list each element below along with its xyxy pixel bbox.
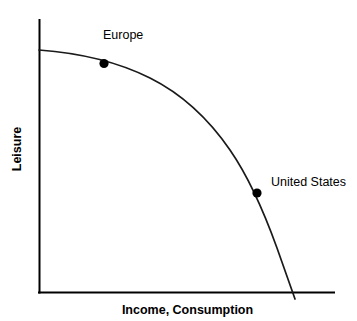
frontier-curve bbox=[39, 50, 295, 299]
data-point-united-states[interactable] bbox=[252, 188, 261, 197]
x-axis-title: Income, Consumption bbox=[0, 304, 357, 317]
y-axis-title: Leisure bbox=[11, 137, 24, 171]
chart-canvas bbox=[0, 0, 357, 321]
data-label-united-states: United States bbox=[271, 176, 346, 189]
data-point-europe[interactable] bbox=[99, 59, 108, 68]
chart-container: Europe United States Income, Consumption… bbox=[0, 0, 357, 321]
data-label-europe: Europe bbox=[103, 29, 143, 42]
